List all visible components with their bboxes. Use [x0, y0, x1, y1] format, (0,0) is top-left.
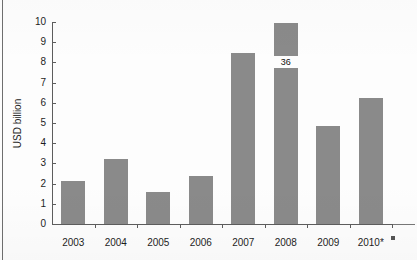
y-axis-tick — [52, 224, 56, 225]
y-axis-tick-label-wrap: 4 — [26, 138, 46, 148]
bar — [274, 23, 298, 224]
y-axis-tick — [52, 184, 56, 185]
y-axis-tick-label-wrap: 10 — [26, 17, 46, 27]
y-axis-tick — [52, 143, 56, 144]
bar — [61, 181, 85, 224]
y-axis-tick-label: 3 — [26, 158, 46, 168]
y-axis-tick-label: 0 — [26, 219, 46, 229]
bar — [316, 126, 340, 224]
x-axis-tick-label: 2007 — [221, 238, 265, 248]
x-axis-tick-label: 2008 — [264, 238, 308, 248]
plot-area: 012345678910 200320042005200620072008200… — [0, 0, 417, 260]
y-axis-tick-label: 8 — [26, 57, 46, 67]
y-axis-tick — [52, 163, 56, 164]
bar-chart-figure: 012345678910 200320042005200620072008200… — [0, 0, 417, 260]
y-axis-tick-label-wrap: 5 — [26, 118, 46, 128]
x-axis-tick-label: 2009 — [306, 238, 350, 248]
y-axis-tick-label-wrap: 7 — [26, 78, 46, 88]
y-axis-tick — [52, 204, 56, 205]
y-axis-tick — [52, 103, 56, 104]
y-axis-tick-label-wrap: 1 — [26, 199, 46, 209]
x-axis-tick-label: 2005 — [136, 238, 180, 248]
x-axis-tick-label: 2003 — [51, 238, 95, 248]
x-axis-tick — [307, 224, 308, 228]
y-axis-tick — [52, 22, 56, 23]
x-axis-tick — [222, 224, 223, 228]
x-axis-tick-label: 2004 — [94, 238, 138, 248]
y-axis-tick-label: 9 — [26, 37, 46, 47]
y-axis-tick-label: 5 — [26, 118, 46, 128]
y-axis-tick-label: 4 — [26, 138, 46, 148]
bar — [146, 192, 170, 224]
x-axis-tick-label: 2006 — [179, 238, 223, 248]
y-axis-tick-label-wrap: 8 — [26, 57, 46, 67]
y-axis-tick-label-wrap: 9 — [26, 37, 46, 47]
y-axis-tick — [52, 123, 56, 124]
x-axis-tick — [137, 224, 138, 228]
x-axis-tick — [180, 224, 181, 228]
x-axis-tick — [350, 224, 351, 228]
x-axis-tick — [95, 224, 96, 228]
x-axis-tick — [265, 224, 266, 228]
y-axis-tick-label: 6 — [26, 98, 46, 108]
y-axis-tick-label-wrap: 0 — [26, 219, 46, 229]
x-axis-tick — [392, 224, 393, 228]
bar — [359, 98, 383, 224]
y-axis-tick-label: 7 — [26, 78, 46, 88]
y-axis-tick — [52, 42, 56, 43]
y-axis-tick-label-wrap: 2 — [26, 179, 46, 189]
y-axis-tick-label-wrap: 3 — [26, 158, 46, 168]
y-axis-tick — [52, 83, 56, 84]
bar — [231, 53, 255, 224]
y-axis-tick-label: 10 — [26, 17, 46, 27]
y-axis-title: USD billion — [12, 79, 23, 169]
y-axis-tick-label: 2 — [26, 179, 46, 189]
bar — [189, 176, 213, 224]
y-axis-tick-label: 1 — [26, 199, 46, 209]
bar — [104, 159, 128, 224]
y-axis-tick-label-wrap: 6 — [26, 98, 46, 108]
x-axis-tick-label: 2010* — [349, 238, 393, 248]
bar-value-annotation: 36 — [272, 56, 300, 68]
y-axis-tick — [52, 62, 56, 63]
